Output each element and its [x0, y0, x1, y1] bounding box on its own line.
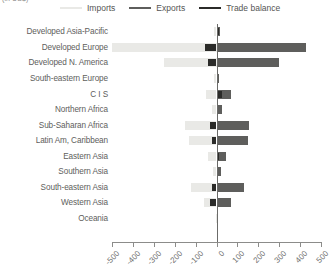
bar-imports [208, 152, 216, 161]
bar-trade-balance [210, 199, 217, 206]
category-label-south-eastern-europe: South-eastern Europe [0, 71, 108, 87]
category-label-oceania: Oceania [0, 211, 108, 227]
category-label-southern-asia: Southern Asia [0, 164, 108, 180]
bar-exports [217, 136, 248, 145]
caption-fragment: (in US$) [2, 0, 28, 2]
chart-row: Developed N. America [0, 55, 323, 71]
legend-swatch-exports-icon [129, 7, 151, 9]
chart-row: Western Asia [0, 195, 323, 211]
chart-row: Eastern Asia [0, 149, 323, 165]
x-axis-tick [196, 242, 197, 247]
x-axis: -500-400-300-200-1000100200300400500 [0, 242, 323, 278]
bar-imports [206, 90, 216, 99]
x-axis-tick [154, 242, 155, 247]
category-label-developed-asia-pacific: Developed Asia-Pacific [0, 24, 108, 40]
chart-legend: Imports Exports Trade balance [60, 0, 323, 16]
legend-label-imports: Imports [87, 4, 115, 13]
bar-trade-balance [208, 59, 217, 66]
chart-row: South-eastern Europe [0, 71, 323, 87]
chart-row: Northern Africa [0, 102, 323, 118]
category-label-latin-am-caribbean: Latin Am, Caribbean [0, 133, 108, 149]
chart-row: Sub-Saharan Africa [0, 117, 323, 133]
chart-row: South-eastern Asia [0, 180, 323, 196]
chart-row: C I S [0, 86, 323, 102]
legend-item-imports: Imports [60, 4, 115, 13]
x-axis-tick [217, 242, 218, 247]
chart-row: Southern Asia [0, 164, 323, 180]
x-axis-tick [258, 242, 259, 247]
chart-row: Oceania [0, 211, 323, 227]
legend-item-exports: Exports [129, 4, 185, 13]
x-axis-tick [112, 242, 113, 247]
bar-exports [217, 58, 280, 67]
chart-row: Latin Am, Caribbean [0, 133, 323, 149]
category-label-northern-africa: Northern Africa [0, 102, 108, 118]
chart-rows: Developed Asia-PacificDeveloped EuropeDe… [0, 24, 323, 242]
bar-exports [217, 183, 244, 192]
bar-exports [217, 121, 249, 130]
chart-row: Developed Europe [0, 40, 323, 56]
legend-label-trade-balance: Trade balance [226, 4, 280, 13]
chart-plot-area: Developed Asia-PacificDeveloped EuropeDe… [0, 24, 323, 242]
category-label-sub-saharan-africa: Sub-Saharan Africa [0, 117, 108, 133]
bar-trade-balance [205, 44, 216, 51]
legend-swatch-trade-balance-icon [199, 7, 221, 10]
x-axis-tick [133, 242, 134, 247]
category-label-eastern-asia: Eastern Asia [0, 149, 108, 165]
chart-row: Developed Asia-Pacific [0, 24, 323, 40]
bar-trade-balance [210, 122, 217, 129]
bar-exports [217, 198, 232, 207]
category-label-c-i-s: C I S [0, 86, 108, 102]
x-axis-tick [175, 242, 176, 247]
bar-imports [112, 43, 217, 52]
category-label-developed-europe: Developed Europe [0, 40, 108, 56]
legend-label-exports: Exports [156, 4, 185, 13]
x-axis-tick [321, 242, 322, 247]
x-axis-tick [300, 242, 301, 247]
legend-swatch-imports-icon [60, 7, 82, 9]
bar-exports [217, 43, 307, 52]
zero-axis-line [217, 24, 218, 242]
category-label-developed-n-america: Developed N. America [0, 55, 108, 71]
category-label-western-asia: Western Asia [0, 195, 108, 211]
x-axis-tick [279, 242, 280, 247]
category-label-south-eastern-asia: South-eastern Asia [0, 180, 108, 196]
x-axis-tick [237, 242, 238, 247]
legend-item-trade-balance: Trade balance [199, 4, 280, 13]
